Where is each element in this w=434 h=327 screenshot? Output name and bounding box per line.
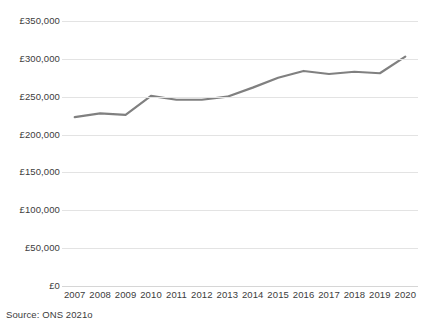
x-axis: 2007200820092010201120122013201420152016… [62,290,418,304]
gridline [62,135,418,136]
x-tick-label: 2019 [369,290,391,300]
y-tick-label: £300,000 [2,54,60,64]
gridline [62,21,418,22]
x-tick-label: 2015 [267,290,289,300]
x-tick-label: 2008 [89,290,111,300]
x-tick-label: 2017 [318,290,340,300]
x-tick-label: 2016 [293,290,315,300]
y-tick-label: £50,000 [2,243,60,253]
source-note: Source: ONS 2021o [6,310,93,320]
gridline [62,248,418,249]
x-tick-label: 2009 [115,290,137,300]
y-tick-label: £350,000 [2,16,60,26]
gridline [62,286,418,287]
gridline [62,172,418,173]
x-tick-label: 2020 [395,290,417,300]
chart-container: £0£50,000£100,000£150,000£200,000£250,00… [0,0,434,327]
x-tick-label: 2014 [242,290,264,300]
x-tick-label: 2011 [166,290,187,300]
y-tick-label: £250,000 [2,92,60,102]
y-tick-label: £200,000 [2,130,60,140]
plot-area [62,21,418,286]
x-tick-label: 2018 [344,290,366,300]
x-tick-label: 2012 [191,290,213,300]
y-tick-label: £150,000 [2,167,60,177]
y-tick-label: £100,000 [2,205,60,215]
x-tick-label: 2010 [140,290,162,300]
y-tick-label: £0 [2,281,60,291]
gridline [62,97,418,98]
gridline [62,210,418,211]
gridline [62,59,418,60]
x-tick-label: 2007 [64,290,86,300]
x-tick-label: 2013 [217,290,239,300]
line-series [62,21,418,286]
y-axis: £0£50,000£100,000£150,000£200,000£250,00… [0,0,60,327]
